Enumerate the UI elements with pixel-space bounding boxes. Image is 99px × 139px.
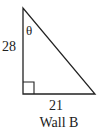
vertical-leg-label: 28 — [2, 40, 16, 54]
horizontal-leg-label: 21 — [49, 99, 63, 113]
right-triangle-shape — [23, 8, 95, 94]
triangle-diagram: 28 θ 21 Wall B — [0, 0, 99, 139]
angle-theta-label: θ — [26, 24, 32, 38]
right-angle-marker-icon — [23, 82, 34, 94]
figure-caption: Wall B — [0, 116, 99, 130]
